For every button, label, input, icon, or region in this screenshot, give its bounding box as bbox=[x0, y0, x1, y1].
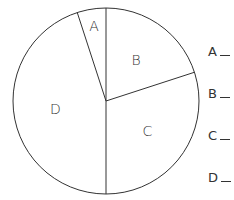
pie-slices bbox=[13, 8, 199, 194]
answer-blank[interactable] bbox=[220, 55, 230, 56]
answer-blank[interactable] bbox=[220, 139, 230, 140]
legend-item-b: B bbox=[208, 86, 230, 101]
legend-item-c: C bbox=[208, 128, 230, 143]
slice-label-d: D bbox=[50, 101, 61, 117]
answer-blank[interactable] bbox=[221, 181, 231, 182]
pie-chart: ABCD bbox=[0, 0, 234, 200]
legend-label: C bbox=[208, 128, 217, 143]
legend-item-a: A bbox=[208, 44, 230, 59]
answer-blank[interactable] bbox=[220, 97, 230, 98]
legend-label: A bbox=[208, 44, 217, 59]
legend-label: D bbox=[208, 170, 218, 185]
legend-item-d: D bbox=[208, 170, 231, 185]
slice-label-a: A bbox=[89, 18, 99, 34]
legend-label: B bbox=[208, 86, 217, 101]
slice-label-c: C bbox=[142, 123, 152, 139]
slice-label-b: B bbox=[131, 52, 140, 68]
